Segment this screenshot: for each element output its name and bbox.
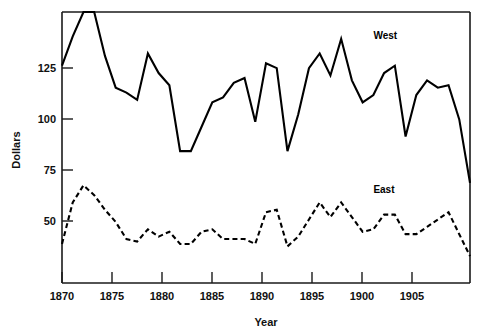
x-tick-label-1875: 1875: [100, 290, 124, 302]
series-label-west: West: [373, 30, 397, 41]
series-label-east: East: [373, 184, 395, 195]
y-axis-ticks: 125 100 75 50: [38, 62, 73, 227]
y-tick-label-100: 100: [38, 113, 56, 125]
x-tick-label-1870: 1870: [50, 290, 74, 302]
series-line-west: [62, 12, 470, 183]
y-tick-label-125: 125: [38, 62, 56, 74]
x-tick-label-1890: 1890: [250, 290, 274, 302]
x-axis-ticks: 1870 1875 1880 1885 1890 1895 1900 1905: [50, 272, 424, 302]
series-line-east: [62, 185, 470, 256]
x-axis-title: Year: [254, 316, 278, 328]
y-tick-label-75: 75: [44, 164, 56, 176]
line-chart: 125 100 75 50 1870 1875 1880 1885 1890 1…: [0, 0, 482, 336]
x-tick-label-1880: 1880: [150, 290, 174, 302]
x-tick-label-1895: 1895: [300, 290, 324, 302]
y-axis-title: Dollars: [10, 131, 22, 168]
x-tick-label-1885: 1885: [200, 290, 224, 302]
plot-frame: [62, 12, 470, 283]
y-tick-label-50: 50: [44, 215, 56, 227]
chart-figure: 125 100 75 50 1870 1875 1880 1885 1890 1…: [0, 0, 482, 336]
x-tick-label-1900: 1900: [350, 290, 374, 302]
series-group: [62, 12, 470, 256]
x-tick-label-1905: 1905: [400, 290, 424, 302]
